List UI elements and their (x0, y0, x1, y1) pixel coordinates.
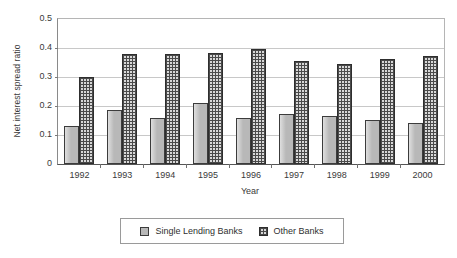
x-axis-tick-label: 1999 (358, 168, 401, 182)
bar[interactable] (408, 123, 423, 164)
legend-swatch-icon (259, 227, 268, 236)
bar-group (58, 19, 101, 164)
x-axis-tick-label: 1994 (144, 168, 187, 182)
x-axis-tick-labels: 199219931994199519961997199819992000 (58, 168, 444, 182)
bar-group (101, 19, 144, 164)
bar[interactable] (122, 54, 137, 164)
y-axis-tick-label: 0 (26, 158, 52, 168)
legend-swatch-icon (140, 227, 149, 236)
x-axis-tick-label: 1995 (187, 168, 230, 182)
y-axis-tick-label: 0.1 (26, 129, 52, 139)
x-axis-tick-label: 1997 (272, 168, 315, 182)
x-axis-tick-label: 1996 (230, 168, 273, 182)
x-axis-tick-label: 1992 (58, 168, 101, 182)
bar[interactable] (251, 49, 266, 164)
bar[interactable] (208, 53, 223, 164)
legend-entry[interactable]: Other Banks (259, 226, 324, 236)
bar-group (358, 19, 401, 164)
bar[interactable] (107, 110, 122, 164)
bar-group (401, 19, 444, 164)
bar-group (272, 19, 315, 164)
y-axis-title: Net interest spread ratio (8, 18, 26, 164)
bar-group (315, 19, 358, 164)
bar[interactable] (337, 64, 352, 164)
y-axis-tick-label: 0.4 (26, 42, 52, 52)
y-axis-tick-label: 0.5 (26, 13, 52, 23)
bar[interactable] (294, 61, 309, 164)
bar[interactable] (165, 54, 180, 164)
x-axis-tick-label: 1998 (315, 168, 358, 182)
bar[interactable] (150, 118, 165, 164)
bar[interactable] (64, 126, 79, 164)
legend-label: Single Lending Banks (155, 226, 242, 236)
bar[interactable] (279, 114, 294, 164)
y-axis-title-text: Net interest spread ratio (12, 44, 22, 137)
bar[interactable] (423, 56, 438, 164)
bar[interactable] (236, 118, 251, 164)
x-axis-tick-label: 2000 (401, 168, 444, 182)
y-axis-tick-labels: 0.50.40.30.20.10 (26, 12, 52, 170)
bar-group (230, 19, 273, 164)
plot-area (57, 18, 445, 165)
x-axis-tick-label: 1993 (101, 168, 144, 182)
bar-group (187, 19, 230, 164)
bar[interactable] (380, 59, 395, 164)
chart-legend: Single Lending BanksOther Banks (120, 218, 344, 244)
legend-entry[interactable]: Single Lending Banks (140, 226, 242, 236)
bar-groups (58, 19, 444, 164)
x-axis-title: Year (57, 186, 443, 196)
bar[interactable] (79, 77, 94, 164)
bar-chart: Net interest spread ratio 0.50.40.30.20.… (0, 0, 457, 258)
bar[interactable] (365, 120, 380, 164)
bar-group (144, 19, 187, 164)
bar[interactable] (193, 103, 208, 164)
legend-label: Other Banks (274, 226, 324, 236)
y-axis-tick-label: 0.3 (26, 71, 52, 81)
bar[interactable] (322, 116, 337, 164)
y-axis-tick-label: 0.2 (26, 100, 52, 110)
